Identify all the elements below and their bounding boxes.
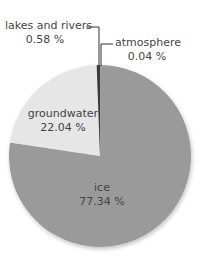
groundwater-name: groundwater	[26, 107, 100, 121]
atmosphere-value: 0.04 %	[115, 50, 179, 64]
lakes-name: lakes and rivers	[5, 19, 85, 33]
label-groundwater: groundwater 22.04 %	[26, 107, 100, 135]
label-ice: ice 77.34 %	[72, 181, 132, 209]
lakes-value: 0.58 %	[5, 33, 85, 47]
atmosphere-name: atmosphere	[115, 36, 179, 50]
groundwater-value: 22.04 %	[26, 121, 100, 135]
ice-value: 77.34 %	[72, 195, 132, 209]
ice-name: ice	[72, 181, 132, 195]
label-lakes-and-rivers: lakes and rivers 0.58 %	[5, 19, 85, 47]
lakes-callout-line	[86, 27, 99, 66]
atmosphere-callout-line	[101, 44, 113, 66]
label-atmosphere: atmosphere 0.04 %	[115, 36, 179, 64]
